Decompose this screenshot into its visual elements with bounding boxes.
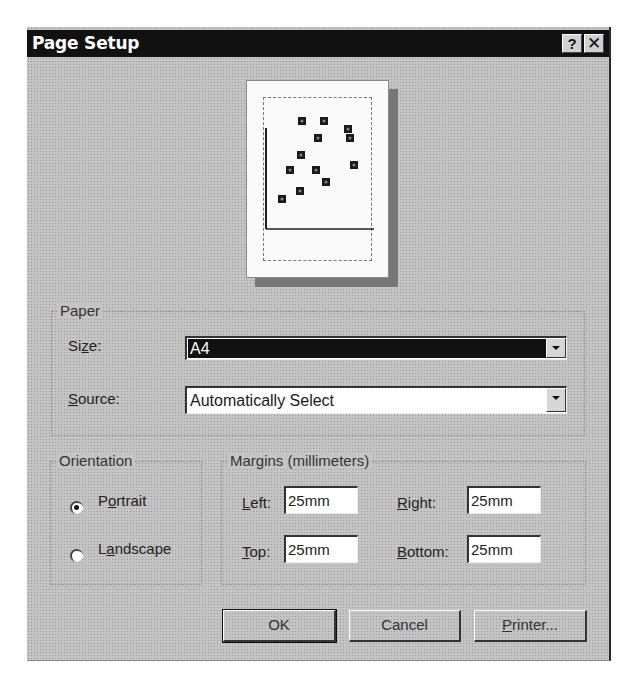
printer-button[interactable]: Printer... xyxy=(474,610,587,642)
source-label: Source: xyxy=(68,390,120,407)
orientation-group: Orientation xyxy=(50,461,202,585)
source-select-value: Automatically Select xyxy=(190,392,334,410)
paper-group: Paper xyxy=(51,311,585,436)
paper-group-label: Paper xyxy=(58,302,102,319)
bottom-margin-label: Bottom: xyxy=(397,543,449,560)
top-margin-input[interactable] xyxy=(284,535,358,563)
source-select[interactable]: Automatically Select xyxy=(185,386,567,414)
portrait-radio[interactable] xyxy=(70,501,83,514)
portrait-label[interactable]: Portrait xyxy=(98,492,146,509)
size-label: Size: xyxy=(68,337,101,354)
size-select-value: A4 xyxy=(190,340,210,358)
landscape-radio[interactable] xyxy=(70,549,83,562)
chevron-down-icon[interactable] xyxy=(546,338,566,358)
size-select[interactable]: A4 xyxy=(185,336,567,360)
right-margin-label: Right: xyxy=(397,494,436,511)
size-select-highlight xyxy=(188,339,546,358)
page-preview xyxy=(246,80,389,278)
dialog-title: Page Setup xyxy=(32,33,139,53)
title-bar[interactable]: Page Setup ? ✕ xyxy=(27,30,609,57)
ok-button[interactable]: OK xyxy=(223,610,336,642)
right-margin-input[interactable] xyxy=(467,486,541,514)
bottom-margin-input[interactable] xyxy=(467,535,541,563)
margins-group-label: Margins (millimeters) xyxy=(228,452,371,469)
top-margin-label: Top: xyxy=(242,543,270,560)
question-mark-icon: ? xyxy=(567,35,576,52)
margins-group: Margins (millimeters) xyxy=(221,461,586,585)
left-margin-label: Left: xyxy=(242,494,271,511)
cancel-button[interactable]: Cancel xyxy=(349,610,461,642)
page-setup-dialog: Page Setup ? ✕ Paper Size: A4 Source: Au… xyxy=(27,27,611,661)
preview-scatter-icon xyxy=(247,81,390,279)
left-margin-input[interactable] xyxy=(284,486,358,514)
help-button[interactable]: ? xyxy=(562,34,582,53)
close-icon: ✕ xyxy=(587,34,601,53)
orientation-group-label: Orientation xyxy=(57,452,134,469)
chevron-down-icon[interactable] xyxy=(546,388,566,412)
close-button[interactable]: ✕ xyxy=(584,34,604,53)
landscape-label[interactable]: Landscape xyxy=(98,540,171,557)
